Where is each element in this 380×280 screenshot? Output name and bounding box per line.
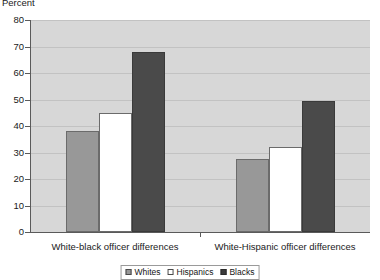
bar-hispanics-group-2 (269, 147, 302, 232)
y-tick-label: 80 (13, 15, 24, 25)
category-separator-tick (200, 232, 201, 237)
legend-label: Hispanics (177, 267, 214, 277)
y-tick-mark-30 (25, 153, 30, 154)
y-tick-label: 40 (13, 121, 24, 131)
y-axis-title: Percent (2, 0, 35, 8)
chart-legend: WhitesHispanicsBlacks (121, 265, 260, 280)
bar-blacks-group-2 (302, 101, 335, 232)
y-tick-label: 50 (13, 95, 24, 105)
category-label-1: White-black officer differences (30, 241, 200, 252)
y-tick-label: 70 (13, 42, 24, 52)
bar-chart: Percent 01020304050607080White-black off… (0, 0, 380, 280)
legend-label: Whites (135, 267, 161, 277)
y-tick-mark-10 (25, 206, 30, 207)
bar-blacks-group-1 (132, 52, 165, 232)
legend-swatch-whites-icon (126, 269, 132, 275)
plot-area (30, 20, 370, 232)
y-tick-mark-50 (25, 100, 30, 101)
bar-whites-group-2 (236, 159, 269, 232)
gridline-60 (30, 73, 370, 74)
legend-swatch-blacks-icon (220, 269, 226, 275)
y-tick-mark-0 (25, 232, 30, 233)
y-tick-mark-20 (25, 179, 30, 180)
legend-item-whites[interactable]: Whites (126, 267, 161, 277)
y-tick-label: 0 (19, 227, 24, 237)
y-tick-mark-80 (25, 20, 30, 21)
category-label-2: White-Hispanic officer differences (200, 241, 370, 252)
y-axis-line (30, 20, 31, 233)
legend-item-hispanics[interactable]: Hispanics (168, 267, 214, 277)
y-tick-label: 20 (13, 174, 24, 184)
y-tick-label: 60 (13, 68, 24, 78)
legend-item-blacks[interactable]: Blacks (220, 267, 254, 277)
y-tick-mark-70 (25, 47, 30, 48)
bar-hispanics-group-1 (99, 113, 132, 232)
y-tick-label: 10 (13, 201, 24, 211)
y-tick-mark-60 (25, 73, 30, 74)
y-tick-label: 30 (13, 148, 24, 158)
y-tick-mark-40 (25, 126, 30, 127)
legend-swatch-hispanics-icon (168, 269, 174, 275)
legend-label: Blacks (229, 267, 254, 277)
bar-whites-group-1 (66, 131, 99, 232)
gridline-70 (30, 47, 370, 48)
gridline-80 (30, 20, 370, 21)
